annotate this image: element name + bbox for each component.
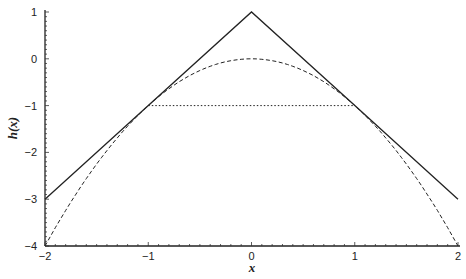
axes: −2−101210−1−2−3−4	[24, 6, 461, 262]
series-dashed-line	[45, 59, 458, 246]
x-tick-label: −1	[142, 250, 155, 262]
x-axis-label: x	[248, 260, 256, 275]
y-tick-label: −1	[24, 100, 37, 112]
y-tick-label: −3	[24, 193, 37, 205]
y-tick-label: −2	[24, 146, 37, 158]
y-tick-label: 1	[31, 6, 37, 18]
chart: −2−101210−1−2−3−4 x h(x)	[0, 0, 466, 279]
y-tick-label: 0	[31, 53, 37, 65]
y-tick-label: −4	[24, 240, 37, 252]
x-tick-label: −2	[39, 250, 52, 262]
y-axis-label: h(x)	[5, 117, 20, 139]
plot-area	[45, 12, 458, 246]
x-tick-label: 2	[455, 250, 461, 262]
series-solid-line	[45, 12, 458, 199]
x-tick-label: 1	[352, 250, 358, 262]
